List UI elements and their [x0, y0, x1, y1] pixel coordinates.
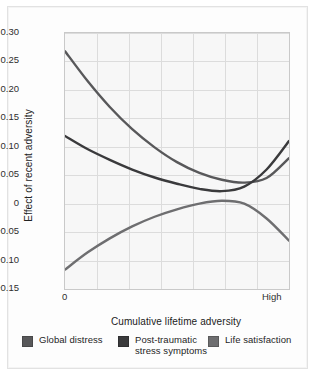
figure: Effect of recent adversity 0.300.250.200…	[0, 0, 313, 385]
y-axis-tick-text: 0	[14, 198, 19, 208]
gridline-horizontal	[65, 289, 289, 290]
line-chart: Effect of recent adversity 0.300.250.200…	[0, 0, 313, 385]
series-curves	[65, 33, 289, 289]
series-line	[65, 201, 289, 270]
legend-item[interactable]: Global distress	[22, 334, 118, 347]
series-line	[65, 136, 289, 191]
y-axis-tick-text: 0.05	[1, 169, 20, 179]
x-axis-tick-low: 0	[62, 291, 67, 302]
y-axis-tick-text: −0.15	[0, 283, 19, 293]
legend-item[interactable]: Life satisfaction	[208, 334, 294, 347]
legend-label: Life satisfaction	[225, 334, 291, 345]
y-axis-tick-text: 0.25	[1, 55, 20, 65]
y-axis-tick-text: 0.10	[1, 141, 20, 151]
y-axis-tick-text: −0.10	[0, 255, 19, 265]
series-line	[65, 51, 289, 182]
y-axis-tick-text: −0.05	[0, 226, 19, 236]
legend-swatch-icon	[22, 336, 33, 347]
legend-label: Global distress	[39, 334, 103, 345]
legend-swatch-icon	[208, 336, 219, 347]
y-axis-tick-text: 0.30	[1, 27, 20, 37]
y-axis-tick-text: 0.15	[1, 112, 20, 122]
chart-legend: Global distressPost-traumatic stress sym…	[22, 334, 294, 356]
x-axis-tick-high: High	[262, 291, 282, 302]
legend-swatch-icon	[118, 336, 129, 347]
y-axis-title: Effect of recent adversity	[23, 76, 34, 256]
y-axis-tick-text: 0.20	[1, 84, 20, 94]
legend-label: Post-traumatic stress symptoms	[135, 334, 208, 356]
x-axis-title: Cumulative lifetime adversity	[64, 316, 288, 327]
plot-area	[64, 32, 290, 290]
legend-item[interactable]: Post-traumatic stress symptoms	[118, 334, 208, 356]
